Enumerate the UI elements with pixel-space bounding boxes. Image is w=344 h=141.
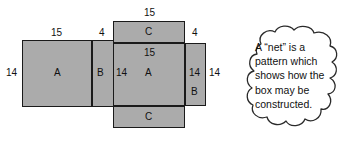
net-definition-callout: A “net” is a pattern which shows how the…: [243, 22, 344, 134]
dim-center-a-right: 14: [189, 68, 200, 78]
dim-center-a-left: 14: [116, 68, 127, 78]
face-a-center-label: A: [145, 68, 152, 78]
dim-left-b-top: 4: [99, 28, 105, 38]
face-c-bottom-label: C: [145, 112, 152, 122]
callout-line-2: pattern which: [255, 54, 333, 68]
face-b-left-label: B: [97, 68, 104, 78]
dim-right-b-top: 4: [192, 28, 198, 38]
callout-line-5: constructed.: [255, 97, 333, 111]
diagram-canvas: A 15 14 B 4 C 15 B 4 14 A 15 14 14 C A “…: [0, 0, 344, 141]
dim-right-b-side: 14: [209, 68, 220, 78]
face-a-left-label: A: [54, 68, 61, 78]
dim-top-c-width: 15: [144, 8, 155, 18]
dim-left-a-side: 14: [6, 68, 17, 78]
callout-text: A “net” is a pattern which shows how the…: [255, 40, 333, 111]
callout-line-4: box may be: [255, 83, 333, 97]
dim-left-a-top: 15: [51, 28, 62, 38]
face-c-top-label: C: [145, 27, 152, 37]
dim-center-a-top: 15: [144, 48, 155, 58]
callout-line-3: shows how the: [255, 68, 333, 82]
callout-line-1: A “net” is a: [255, 40, 333, 54]
face-b-right-label: B: [191, 87, 198, 97]
